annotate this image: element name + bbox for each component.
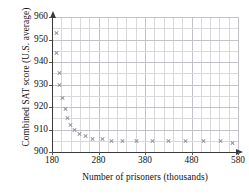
x-axis-tick-label: 180 xyxy=(45,156,59,165)
gridline-horizontal xyxy=(52,118,238,119)
x-axis-tick-label: 280 xyxy=(92,156,106,165)
x-axis-tick-label: 480 xyxy=(185,156,199,165)
gridline-horizontal xyxy=(52,107,238,108)
gridline-horizontal xyxy=(52,141,238,142)
gridline-horizontal xyxy=(52,130,238,131)
scatter-chart-figure: Combined SAT score (U.S. average) 180280… xyxy=(0,0,249,194)
gridline-horizontal xyxy=(52,40,238,41)
gridline-horizontal xyxy=(52,51,238,52)
gridline-horizontal xyxy=(52,17,238,18)
gridline-horizontal xyxy=(52,62,238,63)
y-axis-tick-label: 910 xyxy=(34,125,48,134)
gridline-horizontal xyxy=(52,96,238,97)
x-axis-title: Number of prisoners (thousands) xyxy=(52,172,238,182)
x-axis-tick-label: 580 xyxy=(231,156,245,165)
y-axis-line xyxy=(52,17,53,152)
y-axis-tick-label: 960 xyxy=(34,12,48,21)
y-axis-tick xyxy=(49,17,52,18)
y-axis-tick-label: 920 xyxy=(34,102,48,111)
gridline-vertical xyxy=(238,17,239,152)
plot-area: 180280380480580900910920930940950960 xyxy=(52,17,238,152)
gridline-horizontal xyxy=(52,85,238,86)
gridline-horizontal xyxy=(52,73,238,74)
y-axis-tick-label: 930 xyxy=(34,80,48,89)
data-point-marker xyxy=(83,134,88,139)
y-axis-tick xyxy=(49,107,52,108)
y-axis-tick-label: 950 xyxy=(34,35,48,44)
y-axis-tick xyxy=(49,62,52,63)
data-point-marker xyxy=(54,30,59,35)
x-axis-tick-label: 380 xyxy=(138,156,152,165)
y-axis-tick-label: 900 xyxy=(34,147,48,156)
gridline-horizontal xyxy=(52,28,238,29)
y-axis-tick-label: 940 xyxy=(34,57,48,66)
y-axis-tick xyxy=(49,130,52,131)
y-axis-tick xyxy=(49,85,52,86)
y-axis-tick xyxy=(49,152,52,153)
y-axis-title: Combined SAT score (U.S. average) xyxy=(21,2,31,152)
y-axis-tick xyxy=(49,40,52,41)
